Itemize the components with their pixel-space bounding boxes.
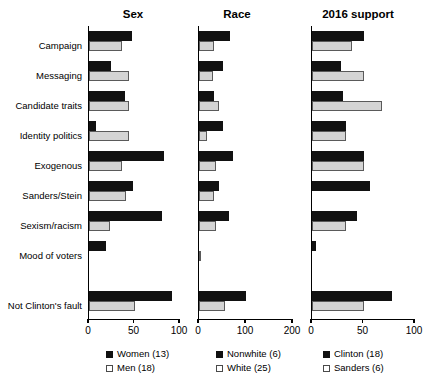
bar-2-1-3 [312, 131, 346, 141]
legend-label: Women (13) [117, 348, 169, 360]
legend-race: Nonwhite (6)White (25) [216, 348, 281, 376]
category-label-sanders-stein: Sanders/Stein [22, 191, 82, 201]
bar-0-1-8 [89, 301, 135, 311]
legend-swatch-icon [216, 365, 223, 372]
bar-2-0-2 [312, 91, 343, 101]
x-tick [197, 319, 198, 323]
bar-0-1-2 [89, 101, 129, 111]
x-tick-label: 50 [357, 325, 368, 336]
legend-swatch-icon [106, 365, 113, 372]
bar-0-1-1 [89, 71, 129, 81]
x-tick [87, 319, 88, 323]
panel-race: Race 0100200 Nonwhite (6)White (25) [198, 0, 300, 345]
panel-2016-support: 2016 support 050100 Clinton (18)Sanders … [311, 0, 421, 345]
bar-1-1-7 [199, 251, 201, 261]
x-tick-label: 0 [85, 325, 91, 336]
bar-0-1-3 [89, 131, 129, 141]
x-tick [310, 319, 311, 323]
bar-2-1-8 [312, 301, 364, 311]
bar-0-0-2 [89, 91, 125, 101]
legend-label: White (25) [227, 362, 271, 374]
bar-1-1-1 [199, 71, 213, 81]
bar-2-0-3 [312, 121, 346, 131]
bar-1-0-4 [199, 151, 233, 161]
category-label-identity-politics: Identity politics [20, 131, 82, 141]
legend-swatch-icon [323, 351, 330, 358]
bar-1-1-5 [199, 191, 214, 201]
x-tick-label: 100 [406, 325, 423, 336]
bar-1-1-8 [199, 301, 225, 311]
bar-1-1-2 [199, 101, 219, 111]
legend-sex: Women (13)Men (18) [106, 348, 169, 376]
x-tick [362, 319, 363, 323]
legend-label: Nonwhite (6) [227, 348, 281, 360]
bar-0-0-8 [89, 291, 172, 301]
bar-0-0-5 [89, 181, 133, 191]
bar-0-0-6 [89, 211, 162, 221]
legend-swatch-icon [323, 365, 330, 372]
x-tick [413, 319, 414, 323]
plot-area-2016-support [311, 26, 415, 319]
bar-1-0-1 [199, 61, 223, 71]
category-axis-labels: Campaign Messaging Candidate traits Iden… [0, 0, 86, 320]
bar-1-0-8 [199, 291, 246, 301]
bar-0-0-4 [89, 151, 164, 161]
legend-item[interactable]: Men (18) [106, 362, 169, 374]
x-tick-label: 100 [237, 325, 254, 336]
x-tick-label: 50 [128, 325, 139, 336]
bar-2-1-6 [312, 221, 346, 231]
legend-2016-support: Clinton (18)Sanders (6) [323, 348, 384, 376]
bar-2-0-7 [312, 241, 316, 251]
bar-1-0-0 [199, 31, 230, 41]
panel-title-sex: Sex [88, 8, 178, 20]
bar-1-0-2 [199, 91, 214, 101]
bar-2-0-4 [312, 151, 364, 161]
bar-0-1-0 [89, 41, 122, 51]
x-tick [244, 319, 245, 323]
bar-2-1-2 [312, 101, 382, 111]
legend-item[interactable]: Clinton (18) [323, 348, 384, 360]
category-label-messaging: Messaging [36, 71, 82, 81]
bar-0-0-7 [89, 241, 106, 251]
bar-1-1-6 [199, 221, 216, 231]
bar-chart-figure: Campaign Messaging Candidate traits Iden… [0, 0, 425, 381]
bar-0-0-3 [89, 121, 96, 131]
panel-title-2016-support: 2016 support [303, 8, 413, 20]
x-tick-label: 100 [171, 325, 188, 336]
legend-item[interactable]: Women (13) [106, 348, 169, 360]
bar-2-1-1 [312, 71, 364, 81]
x-tick-label: 0 [308, 325, 314, 336]
x-tick [291, 319, 292, 323]
bar-2-0-8 [312, 291, 392, 301]
bar-0-1-6 [89, 221, 110, 231]
x-tick-label: 200 [284, 325, 301, 336]
category-label-mood-of-voters: Mood of voters [19, 251, 82, 261]
plot-area-race [198, 26, 293, 319]
bar-0-0-0 [89, 31, 132, 41]
legend-item[interactable]: White (25) [216, 362, 281, 374]
bar-2-1-0 [312, 41, 352, 51]
category-label-campaign: Campaign [39, 41, 82, 51]
bar-1-0-6 [199, 211, 229, 221]
legend-label: Sanders (6) [334, 362, 384, 374]
bar-1-1-0 [199, 41, 214, 51]
bar-2-0-5 [312, 181, 370, 191]
category-label-candidate-traits: Candidate traits [15, 101, 82, 111]
bar-0-1-5 [89, 191, 126, 201]
bar-1-1-4 [199, 161, 216, 171]
legend-swatch-icon [106, 351, 113, 358]
bar-2-1-4 [312, 161, 364, 171]
category-label-not-clintons-fault: Not Clinton's fault [8, 301, 82, 311]
bar-1-1-3 [199, 131, 207, 141]
x-tick [133, 319, 134, 323]
bar-2-0-0 [312, 31, 364, 41]
category-label-sexism-racism: Sexism/racism [20, 221, 82, 231]
panel-sex: Sex 050100 Women (13)Men (18) [88, 0, 190, 345]
legend-item[interactable]: Nonwhite (6) [216, 348, 281, 360]
legend-swatch-icon [216, 351, 223, 358]
bar-0-0-1 [89, 61, 111, 71]
bar-2-0-6 [312, 211, 357, 221]
category-label-exogenous: Exogenous [34, 161, 82, 171]
bar-1-0-3 [199, 121, 223, 131]
legend-item[interactable]: Sanders (6) [323, 362, 384, 374]
